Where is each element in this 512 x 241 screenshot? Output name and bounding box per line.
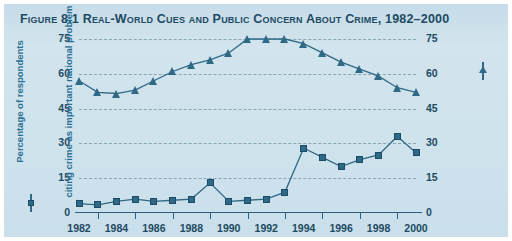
x-axis-tick xyxy=(98,213,99,219)
data-point-marker xyxy=(394,133,401,140)
x-axis-tick-label: 1992 xyxy=(255,222,278,234)
x-axis-tick xyxy=(285,213,286,219)
legend-triangle-marker-icon xyxy=(479,66,487,73)
legend-square-marker-icon xyxy=(28,200,34,206)
data-point-marker xyxy=(113,198,120,205)
right-axis-tick-label: 15 xyxy=(426,172,438,183)
data-point-marker xyxy=(207,179,214,186)
left-axis-tick-label: 0 xyxy=(64,207,70,218)
x-axis-tick-label: 1982 xyxy=(67,222,90,234)
figure-title: Figure 8.1 Real-World Cues and Public Co… xyxy=(20,12,449,26)
data-point-marker xyxy=(281,189,288,196)
data-point-marker xyxy=(355,65,363,73)
data-point-marker xyxy=(356,156,363,163)
series-line-2 xyxy=(79,39,416,94)
data-point-marker xyxy=(132,196,139,203)
data-point-marker xyxy=(131,86,139,94)
x-axis-tick-label: 1984 xyxy=(105,222,128,234)
x-axis-tick-label: 1994 xyxy=(292,222,315,234)
data-point-marker xyxy=(375,152,382,159)
data-point-marker xyxy=(300,145,307,152)
series-lines xyxy=(79,39,416,213)
x-axis-tick-label: 1990 xyxy=(217,222,240,234)
data-point-marker xyxy=(206,56,214,64)
data-point-marker xyxy=(188,196,195,203)
data-point-marker xyxy=(150,198,157,205)
data-point-marker xyxy=(76,200,83,207)
right-axis-tick-label: 45 xyxy=(426,103,438,114)
right-axis-tick-label: 60 xyxy=(426,68,438,79)
data-point-marker xyxy=(93,88,101,96)
figure-container: Figure 8.1 Real-World Cues and Public Co… xyxy=(0,0,512,241)
data-point-marker xyxy=(337,58,345,66)
x-axis-tick-label: 1986 xyxy=(142,222,165,234)
data-point-marker xyxy=(319,154,326,161)
x-axis-tick-label: 1998 xyxy=(367,222,390,234)
data-point-marker xyxy=(225,198,232,205)
data-point-marker xyxy=(338,163,345,170)
data-point-marker xyxy=(280,35,288,43)
figure-panel: Figure 8.1 Real-World Cues and Public Co… xyxy=(4,4,508,237)
data-point-marker xyxy=(75,77,83,85)
data-point-marker xyxy=(318,49,326,57)
data-point-marker xyxy=(168,67,176,75)
left-axis-caption-line2: citing crime as important national probl… xyxy=(63,5,74,197)
x-axis-tick xyxy=(397,213,398,219)
data-point-marker xyxy=(112,90,120,98)
data-point-marker xyxy=(149,77,157,85)
x-axis-tick xyxy=(322,213,323,219)
plot-area: 01530456075 01530456075 1982198419861988… xyxy=(79,39,416,213)
x-axis-tick xyxy=(360,213,361,219)
x-axis-tick-label: 2000 xyxy=(404,222,427,234)
data-point-marker xyxy=(263,196,270,203)
x-axis-tick xyxy=(210,213,211,219)
data-point-marker xyxy=(224,49,232,57)
right-axis-tick-label: 75 xyxy=(426,33,438,44)
left-axis-caption-line1: Percentage of respondents xyxy=(14,40,25,162)
data-point-marker xyxy=(413,149,420,156)
series-line-1 xyxy=(79,136,416,204)
x-axis-tick-label: 1996 xyxy=(329,222,352,234)
x-axis-tick xyxy=(135,213,136,219)
data-point-marker xyxy=(187,61,195,69)
right-axis-tick-label: 30 xyxy=(426,137,438,148)
data-point-marker xyxy=(94,201,101,208)
data-point-marker xyxy=(169,197,176,204)
x-axis-tick xyxy=(248,213,249,219)
data-point-marker xyxy=(244,197,251,204)
x-axis-tick-label: 1988 xyxy=(180,222,203,234)
data-point-marker xyxy=(299,40,307,48)
data-point-marker xyxy=(374,72,382,80)
x-axis-tick xyxy=(173,213,174,219)
data-point-marker xyxy=(262,35,270,43)
data-point-marker xyxy=(243,35,251,43)
data-point-marker xyxy=(393,84,401,92)
data-point-marker xyxy=(412,88,420,96)
right-axis-tick-label: 0 xyxy=(426,207,432,218)
